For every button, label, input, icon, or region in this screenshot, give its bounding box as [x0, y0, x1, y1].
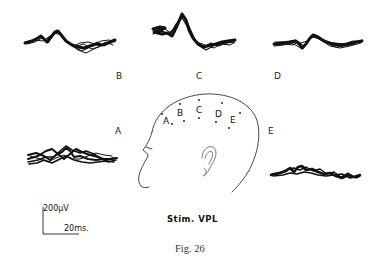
scale-time-label: 20ms.	[64, 224, 89, 233]
figure: A B C D E B C D A E 200µV 20ms. Stim. VP…	[0, 0, 382, 267]
stimulus-label: Stim. VPL	[167, 214, 218, 224]
figure-caption: Fig. 26	[175, 243, 205, 254]
scale-bar	[0, 0, 382, 267]
scale-voltage-label: 200µV	[43, 204, 69, 213]
